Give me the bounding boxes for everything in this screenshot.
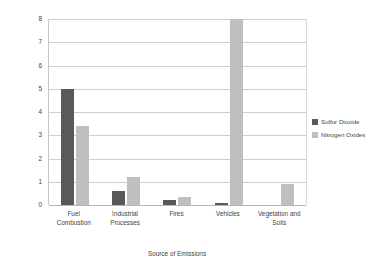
bar-group <box>100 19 151 205</box>
bar-group <box>49 19 100 205</box>
emissions-bar-chart: Total Emissions (millions of metric tons… <box>0 0 383 279</box>
bar <box>76 126 89 205</box>
category-label-line: Industrial <box>99 210 150 219</box>
x-axis-title: Source of Emissions <box>48 250 306 257</box>
category-label-line: Vehicles <box>202 210 253 219</box>
legend-swatch-icon <box>312 132 318 138</box>
y-tick-label: 3 <box>22 131 42 139</box>
category-label-line: Processes <box>99 219 150 228</box>
bars-layer <box>49 19 306 205</box>
y-tick-label: 8 <box>22 15 42 23</box>
y-tick-label: 6 <box>22 62 42 70</box>
bar-group <box>203 19 254 205</box>
bar <box>112 191 125 205</box>
y-tick-label: 0 <box>22 201 42 209</box>
bar <box>215 203 228 205</box>
category-label: Vehicles <box>202 210 253 219</box>
y-tick-label: 1 <box>22 178 42 186</box>
gridline-0 <box>49 205 306 206</box>
plot-area <box>48 19 307 205</box>
bar <box>163 200 176 205</box>
legend-item[interactable]: Nitrogen Oxides <box>312 131 382 138</box>
chart-legend: Sulfur DioxideNitrogen Oxides <box>312 118 382 144</box>
category-label-line: Soils <box>254 219 305 228</box>
category-label: Fires <box>151 210 202 219</box>
category-label: Vegetation andSoils <box>254 210 305 227</box>
bar-group <box>255 19 306 205</box>
bar <box>281 184 294 205</box>
category-label-line: Combustion <box>48 219 99 228</box>
category-label-line: Fires <box>151 210 202 219</box>
legend-label: Nitrogen Oxides <box>321 131 365 138</box>
bar <box>127 177 140 205</box>
bar-group <box>152 19 203 205</box>
category-label-line: Vegetation and <box>254 210 305 219</box>
y-tick-label: 5 <box>22 85 42 93</box>
legend-item[interactable]: Sulfur Dioxide <box>312 118 382 125</box>
legend-swatch-icon <box>312 119 318 125</box>
bar <box>230 19 243 205</box>
bar <box>61 89 74 205</box>
category-label-line: Fuel <box>48 210 99 219</box>
y-tick-label: 4 <box>22 108 42 116</box>
category-label: IndustrialProcesses <box>99 210 150 227</box>
bar <box>178 197 191 205</box>
category-label: FuelCombustion <box>48 210 99 227</box>
y-tick-label: 7 <box>22 38 42 46</box>
y-axis-title-container: Total Emissions (millions of metric tons… <box>0 15 16 205</box>
y-tick-label: 2 <box>22 155 42 163</box>
legend-label: Sulfur Dioxide <box>321 118 360 125</box>
